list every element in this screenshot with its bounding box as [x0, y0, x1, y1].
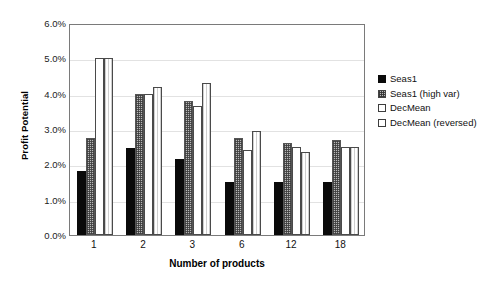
- bar-group: [317, 25, 366, 235]
- bar: [104, 58, 113, 235]
- legend-label: DecMean (reversed): [390, 118, 477, 128]
- y-axis-tick-label: 4.0%: [20, 90, 66, 100]
- legend-label: Seas1: [390, 74, 417, 84]
- legend-swatch-icon: [378, 90, 386, 98]
- bar: [86, 138, 95, 235]
- y-axis-tick-label: 3.0%: [20, 125, 66, 135]
- bar: [193, 106, 202, 235]
- bar-group: [70, 25, 119, 235]
- bar: [144, 94, 153, 235]
- legend-item: DecMean (reversed): [378, 116, 502, 131]
- bar: [350, 147, 359, 235]
- bar-group: [119, 25, 168, 235]
- y-axis-tick-label: 6.0%: [20, 19, 66, 29]
- legend-item: Seas1 (high var): [378, 87, 502, 102]
- legend-label: DecMean: [390, 103, 431, 113]
- bar: [292, 147, 301, 235]
- x-axis-title: Number of products: [69, 258, 365, 269]
- x-axis-tick-label: 1: [69, 239, 118, 250]
- y-axis-tick-label: 1.0%: [20, 196, 66, 206]
- x-axis-tick-label: 6: [217, 239, 266, 250]
- x-axis-tick-label: 12: [266, 239, 315, 250]
- bar-chart: Profit Potential 0.0%1.0%2.0%3.0%4.0%5.0…: [0, 0, 504, 281]
- bar: [234, 138, 243, 235]
- bar-group: [267, 25, 316, 235]
- bar: [274, 182, 283, 235]
- y-axis-tick-label: 2.0%: [20, 160, 66, 170]
- legend-swatch-icon: [378, 104, 386, 112]
- bar: [153, 87, 162, 235]
- bar: [323, 182, 332, 235]
- bar: [252, 131, 261, 235]
- bar: [95, 58, 104, 235]
- x-axis-tick-label: 18: [316, 239, 365, 250]
- plot-area: [69, 24, 365, 236]
- bar: [135, 94, 144, 235]
- legend: Seas1Seas1 (high var)DecMeanDecMean (rev…: [378, 72, 502, 130]
- legend-swatch-icon: [378, 75, 386, 83]
- legend-label: Seas1 (high var): [390, 89, 460, 99]
- x-axis-tick-label: 3: [168, 239, 217, 250]
- bar: [184, 101, 193, 235]
- bar-group: [218, 25, 267, 235]
- y-axis-tick-label: 0.0%: [20, 231, 66, 241]
- legend-item: DecMean: [378, 101, 502, 116]
- bar: [202, 83, 211, 235]
- y-axis-tick-labels: 0.0%1.0%2.0%3.0%4.0%5.0%6.0%: [18, 0, 66, 281]
- bar: [341, 147, 350, 235]
- bar: [243, 150, 252, 235]
- y-axis-tick-label: 5.0%: [20, 54, 66, 64]
- legend-item: Seas1: [378, 72, 502, 87]
- bar-group: [169, 25, 218, 235]
- bar: [301, 152, 310, 235]
- bar: [225, 182, 234, 235]
- bar: [283, 143, 292, 235]
- bar: [175, 159, 184, 235]
- bar: [77, 171, 86, 235]
- x-axis-tick-labels: 12361218: [69, 239, 365, 255]
- legend-swatch-icon: [378, 119, 386, 127]
- bar: [332, 140, 341, 235]
- bar: [126, 148, 135, 235]
- x-axis-tick-label: 2: [118, 239, 167, 250]
